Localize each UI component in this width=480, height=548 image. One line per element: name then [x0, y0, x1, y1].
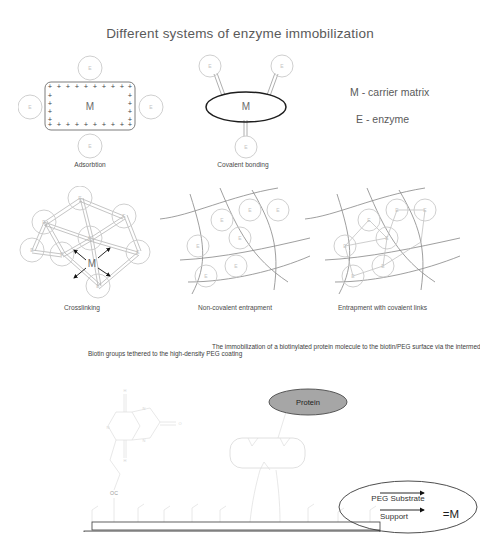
crosslinking-links — [32, 198, 141, 289]
svg-text:+: + — [84, 82, 89, 91]
svg-text:E: E — [276, 207, 280, 213]
svg-text:E: E — [248, 207, 252, 213]
caption-entrapment-covalent-links: Entrapment with covalent links — [305, 304, 460, 311]
note-immobilization: The immobilization of a biotinylated pro… — [212, 342, 392, 352]
adsorbtion-matrix-letter: M — [86, 101, 94, 112]
legend-enzyme: E - enzyme — [356, 113, 409, 125]
svg-text:+: + — [102, 120, 107, 129]
svg-text:E: E — [28, 104, 32, 110]
peg-substrate-line2: Support — [380, 512, 409, 521]
covalent-entrapment-mesh-lines — [305, 188, 460, 294]
protein-label-group: Protein — [269, 389, 347, 415]
svg-text:+: + — [111, 120, 116, 129]
peg-substrate-line1: PEG Substrate — [371, 494, 425, 503]
caption-adsorbtion: Adsorbtion — [40, 161, 140, 168]
svg-text:N: N — [143, 406, 146, 411]
svg-text:E: E — [381, 263, 385, 269]
svg-text:N: N — [143, 438, 146, 443]
svg-text:E: E — [238, 235, 242, 241]
svg-text:N: N — [107, 425, 110, 430]
protein-label: Protein — [296, 398, 320, 407]
svg-text:+: + — [93, 120, 98, 129]
svg-text:+: + — [128, 120, 133, 129]
caption-non-covalent-entrapment: Non-covalent entrapment — [165, 304, 305, 311]
streptavidin-body — [230, 438, 305, 468]
svg-text:E: E — [385, 235, 389, 241]
streptavidin-complex — [230, 412, 305, 522]
svg-text:+: + — [120, 120, 125, 129]
svg-text:+: + — [48, 82, 53, 91]
peg-substrate-ellipse — [339, 481, 477, 533]
svg-text:E: E — [136, 249, 140, 255]
svg-text:E: E — [122, 213, 126, 219]
svg-text:+: + — [102, 82, 107, 91]
panel-covalent-bonding-graphic: M E E E — [186, 52, 306, 162]
panel-entrapment-covalent-links-graphic: E E E E E E E — [305, 186, 460, 301]
svg-text:+: + — [57, 120, 62, 129]
peg-chains — [92, 504, 376, 522]
caption-covalent-bonding: Covalent bonding — [188, 161, 298, 168]
svg-text:+: + — [75, 82, 80, 91]
figure-title: Different systems of enzyme immobilizati… — [0, 26, 480, 41]
crosslinking-matrix-letter: M — [88, 258, 96, 269]
enzyme-immobilization-figure: Different systems of enzyme immobilizati… — [0, 0, 480, 548]
svg-text:+: + — [93, 82, 98, 91]
svg-text:E: E — [78, 195, 82, 201]
svg-text:E: E — [42, 219, 46, 225]
svg-text:E: E — [149, 104, 153, 110]
svg-text:+: + — [84, 120, 89, 129]
crosslinking-enzyme-circles: E E E E E E E E — [20, 186, 150, 298]
svg-text:E: E — [220, 217, 224, 223]
svg-text:+: + — [66, 82, 71, 91]
caption-crosslinking: Crosslinking — [22, 304, 142, 311]
svg-text:E: E — [208, 63, 212, 69]
svg-text:E: E — [204, 273, 208, 279]
svg-text:+: + — [75, 120, 80, 129]
covalent-matrix-letter: M — [242, 101, 250, 112]
biotin-structure: N N N O H H OC — [107, 388, 182, 522]
svg-text:E: E — [234, 263, 238, 269]
svg-text:E: E — [280, 63, 284, 69]
svg-text:E: E — [423, 207, 427, 213]
peg-substrate-legend-graphic: PEG Substrate Support =M — [336, 476, 480, 538]
biotin-oc-label: OC — [110, 490, 118, 496]
legend-carrier-matrix: M - carrier matrix — [350, 86, 429, 98]
svg-text:+: + — [48, 120, 53, 129]
svg-text:+: + — [128, 82, 133, 91]
svg-text:+: + — [120, 82, 125, 91]
peg-substrate-equals-matrix: =M — [443, 508, 459, 520]
svg-text:+: + — [57, 82, 62, 91]
svg-text:+: + — [66, 120, 71, 129]
svg-text:O: O — [178, 421, 181, 426]
svg-text:E: E — [60, 251, 64, 257]
svg-text:E: E — [88, 143, 92, 149]
svg-text:E: E — [196, 243, 200, 249]
svg-text:E: E — [351, 273, 355, 279]
svg-text:H: H — [124, 388, 127, 393]
svg-text:+: + — [111, 82, 116, 91]
panel-adsorbtion-graphic: E E E E ++ ++ ++ ++ ++ ++ ++ ++ ++ ++ ++… — [18, 52, 184, 162]
svg-text:H: H — [124, 458, 127, 463]
svg-text:E: E — [88, 65, 92, 71]
panel-crosslinking-graphic: E E E E E E E E M — [18, 186, 163, 301]
panel-non-covalent-entrapment-graphic: E E E E E E E — [160, 186, 310, 301]
svg-text:E: E — [244, 144, 248, 150]
note-biotin-groups: Biotin groups tethered to the high-densi… — [88, 349, 210, 359]
